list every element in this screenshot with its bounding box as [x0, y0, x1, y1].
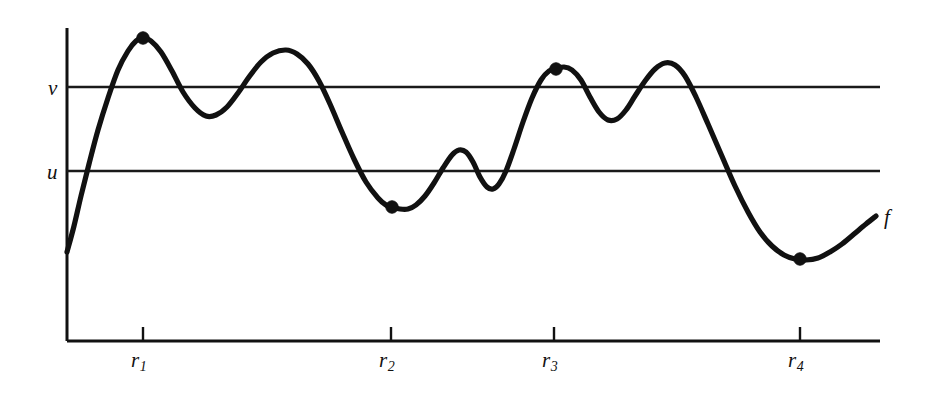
tick-label-r3-sub: 3: [551, 359, 558, 374]
tick-label-r1-sub: 1: [140, 359, 147, 374]
marker-dot-r4: [794, 253, 806, 265]
graph-canvas: [0, 0, 936, 399]
curve-label-f: f: [884, 207, 890, 228]
marker-dot-r1: [137, 32, 149, 44]
tick-label-r2: r2: [379, 350, 395, 374]
tick-label-r1: r1: [131, 350, 147, 374]
function-curve: [67, 38, 876, 260]
tick-label-r2-base: r: [379, 348, 387, 372]
tick-label-r2-sub: 2: [388, 359, 395, 374]
level-label-v: v: [48, 78, 57, 99]
tick-label-r1-base: r: [131, 348, 139, 372]
marker-dot-r3: [550, 63, 562, 75]
tick-label-r4-base: r: [788, 348, 796, 372]
tick-label-r4: r4: [788, 350, 804, 374]
tick-label-r3: r3: [542, 350, 558, 374]
axes-group: [67, 28, 880, 341]
marker-dots-group: [137, 32, 806, 265]
function-graph-figure: v u r1 r2 r3 r4 f: [0, 0, 936, 399]
marker-dot-r2: [386, 201, 398, 213]
tick-marks-group: [143, 327, 800, 341]
tick-label-r3-base: r: [542, 348, 550, 372]
level-label-u: u: [47, 162, 58, 183]
tick-label-r4-sub: 4: [797, 359, 804, 374]
